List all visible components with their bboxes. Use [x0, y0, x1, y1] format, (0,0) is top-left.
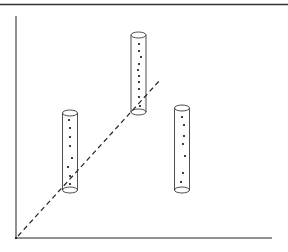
axes	[15, 16, 272, 239]
data-dot	[180, 181, 182, 183]
data-dot	[138, 81, 140, 83]
trend-line-path	[18, 79, 161, 236]
origin-marker	[15, 237, 17, 239]
data-dot	[181, 116, 183, 118]
data-dot	[137, 69, 139, 71]
cylinder-diagram	[0, 0, 288, 252]
cylinder-top-ellipse	[175, 105, 190, 111]
data-dot	[138, 43, 140, 45]
data-dot	[139, 105, 141, 107]
data-dot	[69, 136, 71, 138]
cylinder-bottom-ellipse	[131, 109, 146, 115]
data-dot	[138, 63, 140, 65]
data-dot	[69, 175, 71, 177]
data-dot	[69, 145, 71, 147]
cylinder-middle	[131, 32, 146, 115]
data-dot	[71, 157, 73, 159]
data-dot	[69, 183, 71, 185]
diagram-canvas	[0, 0, 288, 252]
data-dot	[138, 88, 140, 90]
cylinder-top-ellipse	[63, 110, 78, 116]
cylinder-left	[63, 110, 78, 193]
data-dot	[184, 155, 186, 157]
data-dot	[140, 56, 142, 58]
data-dot	[138, 75, 140, 77]
dashed-trend-line	[18, 79, 161, 236]
cylinder-top-ellipse	[131, 32, 146, 38]
data-dot	[138, 50, 140, 52]
data-dot	[67, 166, 69, 168]
data-dot	[182, 143, 184, 145]
data-dot	[68, 119, 70, 121]
cylinder-right	[175, 105, 190, 193]
data-dot	[138, 96, 140, 98]
data-dot	[183, 135, 185, 137]
data-dot	[182, 172, 184, 174]
cylinders	[63, 32, 190, 193]
data-dot	[183, 124, 185, 126]
cylinder-bottom-ellipse	[175, 187, 190, 193]
cylinder-bottom-ellipse	[63, 187, 78, 193]
data-dot	[69, 127, 71, 129]
